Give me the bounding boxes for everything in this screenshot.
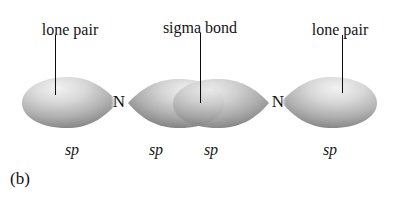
sigma-bond-leader-line bbox=[200, 33, 201, 103]
orbital-diagram-figure: N N lone pair sigma bond lone pair sp sp… bbox=[0, 0, 400, 197]
atom-label-nitrogen-left: N bbox=[113, 93, 125, 110]
lone-pair-left-leader-line bbox=[55, 35, 56, 95]
hybridization-label-lone-pair-right: sp bbox=[323, 142, 337, 158]
lone-pair-right-leader-line bbox=[342, 35, 343, 93]
figure-caption: (b) bbox=[10, 170, 30, 187]
sp-orbital-lone-pair-left bbox=[22, 76, 118, 130]
annotation-lone-pair-left: lone pair bbox=[42, 22, 98, 38]
sp-orbital-bond-right bbox=[173, 78, 269, 130]
hybridization-label-lone-pair-left: sp bbox=[65, 142, 79, 158]
hybridization-label-bond-left: sp bbox=[149, 142, 163, 158]
hybridization-label-bond-right: sp bbox=[204, 142, 218, 158]
annotation-lone-pair-right: lone pair bbox=[312, 22, 368, 38]
sp-orbital-lone-pair-right bbox=[281, 76, 377, 130]
atom-label-nitrogen-right: N bbox=[272, 93, 284, 110]
